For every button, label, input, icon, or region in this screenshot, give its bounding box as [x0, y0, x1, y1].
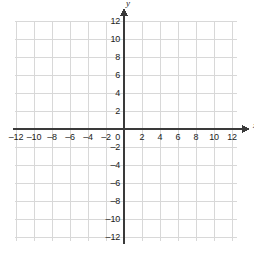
x-axis-label: x [253, 121, 254, 130]
graph-canvas [0, 0, 254, 255]
y-tick-label: ‒10 [106, 215, 120, 224]
x-tick-label: 4 [158, 133, 163, 142]
x-tick-label: ‒12 [9, 133, 23, 142]
x-tick-label: 10 [209, 133, 219, 142]
coordinate-plane-figure: ‒12‒10‒8‒6‒4‒224681012 12108642‒2‒4‒6‒8‒… [0, 0, 254, 255]
y-tick-label: ‒6 [110, 179, 120, 188]
x-tick-label: 2 [140, 133, 145, 142]
x-tick-label: ‒10 [27, 133, 41, 142]
y-tick-label: ‒4 [110, 161, 120, 170]
y-tick-label: 4 [115, 89, 120, 98]
x-tick-label: ‒6 [65, 133, 75, 142]
x-tick-label: ‒2 [101, 133, 111, 142]
x-tick-label: 8 [194, 133, 199, 142]
y-tick-label: 10 [110, 35, 120, 44]
x-tick-label: 12 [227, 133, 237, 142]
y-tick-label: 2 [115, 107, 120, 116]
x-tick-label: ‒8 [47, 133, 57, 142]
x-tick-label: ‒4 [83, 133, 93, 142]
y-tick-label: 6 [115, 71, 120, 80]
y-tick-label: 8 [115, 53, 120, 62]
y-tick-label: ‒8 [110, 197, 120, 206]
x-tick-label: 6 [176, 133, 181, 142]
y-tick-label: ‒2 [110, 143, 120, 152]
origin-tick-label: 0 [115, 133, 120, 142]
grid-lines [15, 21, 237, 241]
y-tick-label: ‒12 [106, 233, 120, 242]
y-tick-label: 12 [110, 17, 120, 26]
y-axis-label: y [126, 0, 130, 8]
